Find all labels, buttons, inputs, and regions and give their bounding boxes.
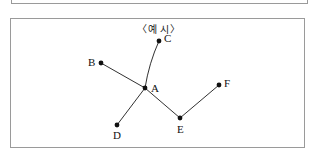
graph-node-layer [99,39,222,128]
graph-node-c [157,39,162,44]
graph-node-label-d: D [113,129,121,141]
graph-edge-layer [101,41,219,125]
preceding-figure-fragment [11,0,308,4]
graph-node-label-b: B [88,56,95,68]
example-figure-box: 〈예 시〉 ABCDEF [10,18,305,148]
node-link-graph: ABCDEF [11,19,306,149]
graph-edge-a-d [117,88,145,125]
graph-node-f [217,83,222,88]
graph-node-label-e: E [177,123,184,135]
graph-label-layer: ABCDEF [88,32,230,141]
graph-node-d [115,123,120,128]
graph-node-a [143,86,148,91]
graph-node-label-a: A [151,82,159,94]
graph-node-label-c: C [164,32,171,44]
graph-edge-b-a [101,63,145,88]
graph-edge-e-f [180,85,219,118]
graph-node-label-f: F [224,77,230,89]
graph-node-b [99,61,104,66]
graph-node-e [178,116,183,121]
graph-edge-a-c [145,41,159,88]
